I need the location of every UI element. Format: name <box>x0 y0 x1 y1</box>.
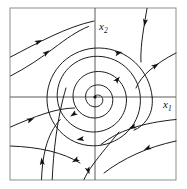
phase-portrait-svg: x1 x2 <box>0 0 187 189</box>
plot-frame <box>10 8 176 180</box>
equilibrium-point <box>93 95 96 98</box>
phase-portrait-figure: x1 x2 <box>0 0 187 189</box>
